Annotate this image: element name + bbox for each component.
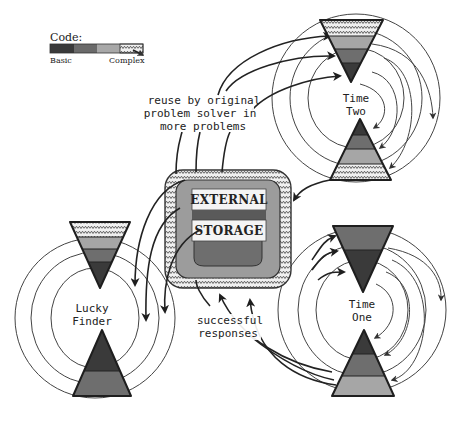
external-storage-line2: STORAGE: [195, 224, 264, 238]
lucky-finder-label-line1: Lucky: [75, 302, 108, 315]
legend-swatch-basic: [50, 44, 74, 53]
reuse-annotation-line3: more problems: [160, 120, 246, 133]
legend-swatch-level2: [74, 44, 97, 53]
lucky-finder-top-triangle: [68, 222, 132, 290]
lucky-finder-label-line2: Finder: [72, 315, 112, 328]
diagram-canvas: Code: Basic Complex: [0, 0, 466, 422]
legend-complex-label: Complex: [109, 56, 145, 65]
time-two-bottom-triangle: [328, 119, 394, 181]
legend: Code: Basic Complex: [50, 31, 145, 65]
successful-annotation-line2: responses: [198, 327, 258, 340]
time-one-bottom-triangle: [330, 330, 396, 398]
legend-title: Code:: [50, 31, 82, 44]
legend-swatch-level3: [97, 44, 120, 53]
time-one-top-triangle: [330, 226, 396, 294]
time-one-label-line1: Time: [349, 298, 376, 311]
external-storage-box: EXTERNAL STORAGE: [165, 170, 291, 288]
reuse-annotation-line2: problem solver in: [144, 107, 257, 120]
time-one-label-line2: One: [352, 311, 372, 324]
legend-basic-label: Basic: [50, 56, 72, 65]
time-two-label-line1: Time: [343, 92, 370, 105]
time-two-label-line2: Two: [346, 105, 366, 118]
external-storage-line1: EXTERNAL: [190, 193, 268, 207]
successful-annotation-line1: successful: [197, 314, 263, 327]
lucky-finder-bottom-triangle: [70, 330, 134, 398]
legend-swatch-complex: [120, 44, 143, 53]
reuse-annotation-line1: reuse by original: [148, 94, 261, 107]
